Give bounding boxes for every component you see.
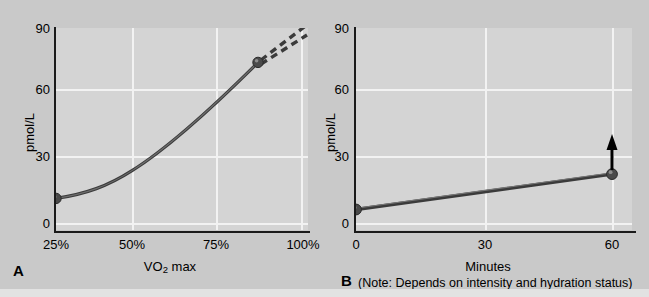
panel-a-y-axis-title: pmol/L: [22, 113, 37, 152]
panel-b-y-axis-title: pmol/L: [323, 113, 338, 152]
panel-b-marker-end: [607, 169, 618, 180]
panel-a-solid-curve: [56, 62, 258, 198]
panel-a-xtick-100: 100%: [281, 237, 325, 252]
panel-b-xtick-30: 30: [465, 237, 505, 252]
panel-b-upward-trend-arrow: [607, 134, 618, 170]
panel-b-x-axis-title: Minutes: [433, 259, 543, 274]
panel-a-xtick-75: 75%: [196, 237, 236, 252]
panel-a-ytick-0: 0: [10, 216, 50, 231]
panel-a-dashed-projection-upper: [261, 28, 306, 60]
panel-a-data-svg: [56, 28, 308, 230]
panel-b-ytick-60: 60: [311, 82, 349, 97]
panel-b-marker-start: [356, 204, 361, 215]
panel-b-solid-line: [356, 174, 612, 209]
panel-a-x-axis-title: VO2 max: [110, 259, 230, 275]
panel-b-xtick-60: 60: [592, 237, 632, 252]
figure-container: 90 60 30 0 25% 50% 75% 100% pmol/L VO2 m…: [0, 0, 649, 297]
panel-b-marker-end-highlight: [609, 170, 613, 174]
panel-a-marker-start: [56, 193, 61, 203]
panel-b-ytick-90: 90: [311, 21, 349, 36]
panel-a-marker-end: [253, 57, 263, 67]
panel-b-label: B: [341, 272, 352, 289]
panel-a-ytick-90: 90: [10, 21, 50, 36]
panel-a-x-axis: [54, 231, 310, 233]
panel-a-plot-area: [56, 28, 308, 230]
panel-a-marker-end-highlight: [255, 59, 259, 63]
panel-a-x-axis-title-suffix: max: [168, 259, 196, 274]
panel-a-label: A: [13, 262, 24, 279]
panel-a-ytick-60: 60: [10, 82, 50, 97]
panel-a-xtick-50: 50%: [112, 237, 152, 252]
panel-b-ytick-0: 0: [311, 216, 349, 231]
panel-b-x-axis: [354, 231, 636, 233]
panel-b: 90 60 30 0 0 30 60 pmol/L Minutes (Note:…: [325, 0, 649, 289]
panel-b-xtick-0: 0: [336, 237, 376, 252]
panel-b-arrow-head: [607, 134, 618, 150]
panel-a-xtick-25: 25%: [36, 237, 76, 252]
panel-a-dashed-projection-lower: [261, 35, 307, 64]
panel-b-y-axis: [354, 27, 356, 231]
panel-a-y-axis: [54, 27, 56, 231]
panel-a-solid-curve-highlight: [56, 62, 258, 198]
panel-a-x-axis-title-prefix: VO: [144, 259, 163, 274]
panel-b-note: (Note: Depends on intensity and hydratio…: [358, 276, 620, 290]
panel-b-plot-area: [356, 28, 632, 230]
panel-b-data-svg: [356, 28, 632, 230]
panel-a: 90 60 30 0 25% 50% 75% 100% pmol/L VO2 m…: [0, 0, 325, 289]
panel-b-solid-line-highlight: [356, 173, 612, 208]
